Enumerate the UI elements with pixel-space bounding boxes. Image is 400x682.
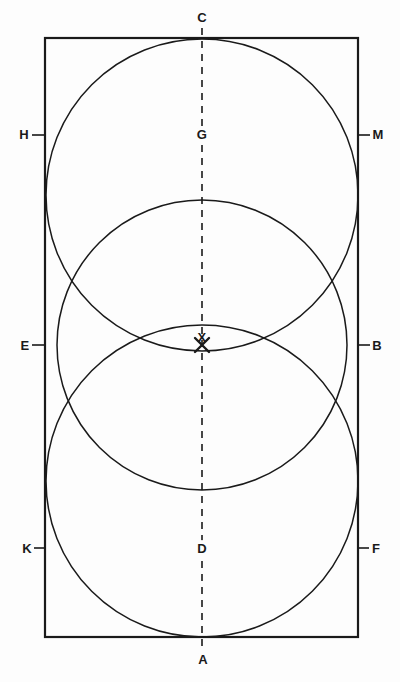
label-M: M [372,127,383,142]
label-E: E [21,338,30,353]
figure-svg: CGHMEBKFDAX [0,0,400,682]
label-H: H [19,127,29,142]
label-C: C [197,10,207,25]
label-A: A [198,652,208,667]
label-G: G [197,127,207,142]
label-X: X [198,330,207,345]
label-B: B [372,338,382,353]
label-F: F [372,541,380,556]
label-K: K [22,541,32,556]
geometric-diagram-canvas: CGHMEBKFDAX [0,0,400,682]
label-D: D [197,541,207,556]
